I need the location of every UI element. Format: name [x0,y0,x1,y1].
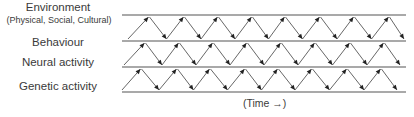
arrowhead-icon [392,85,397,90]
arrowhead-icon [310,43,315,48]
arrowhead-icon [157,60,162,65]
arrowhead-icon [367,34,372,39]
arrowhead-icon [257,85,262,90]
arrowhead-icon [189,85,194,90]
arrowhead-icon [276,43,281,48]
arrowhead-icon [298,34,303,39]
arrowhead-icon [196,34,201,39]
arrowhead-icon [225,60,230,65]
arrowhead-icon [293,60,298,65]
arrowhead-icon [162,34,167,39]
arrowhead-icon [230,34,235,39]
arrowhead-icon [315,17,320,22]
arrowhead-icon [213,17,218,22]
arrowhead-icon [399,34,404,39]
arrowhead-icon [349,17,354,22]
time-axis-label: (Time →) [243,97,286,109]
arrowhead-icon [395,60,400,65]
arrowhead-icon [379,43,384,48]
arrowhead-icon [179,17,184,22]
arrowhead-icon [247,17,252,22]
arrowhead-icon [242,43,247,48]
arrowhead-icon [259,60,264,65]
arrowhead-icon [328,60,333,65]
arrowhead-icon [345,43,350,48]
arrowhead-icon [208,43,213,48]
arrowhead-icon [191,60,196,65]
arrowhead-icon [384,17,389,22]
arrowhead-icon [264,34,269,39]
arrowhead-icon [273,69,278,74]
arrowhead-icon [174,43,179,48]
interaction-zigzag-diagram [0,0,414,117]
arrowhead-icon [362,60,367,65]
arrowhead-icon [205,69,210,74]
arrowhead-icon [332,34,337,39]
arrowhead-icon [280,17,285,22]
